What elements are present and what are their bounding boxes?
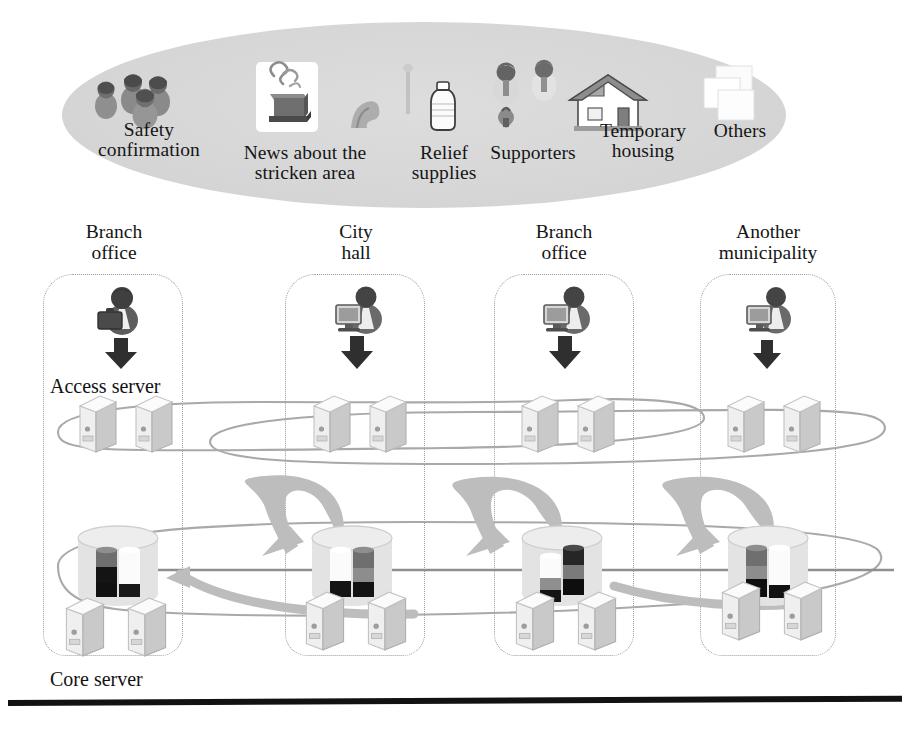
category-label-news: News about the stricken area	[222, 143, 388, 184]
access-server-tower-icon	[572, 392, 620, 456]
category-label-supporters: Supporters	[470, 143, 596, 163]
diagram-canvas: Safety confirmation News about the stric…	[0, 0, 910, 736]
down-arrow-icon-col-4	[752, 340, 782, 370]
core-server-label: Core server	[50, 668, 143, 691]
user-at-computer-icon	[740, 284, 798, 336]
core-server-tower-icon	[122, 594, 172, 660]
site-heading-another-municipality: Another municipality	[688, 222, 848, 263]
access-server-tower-icon	[308, 392, 356, 456]
access-server-tower-icon	[364, 392, 412, 456]
down-arrow-icon-col-2	[340, 336, 374, 370]
access-server-tower-icon	[74, 392, 122, 456]
down-arrow-icon-col-3	[548, 336, 582, 370]
category-label-others: Others	[694, 121, 786, 141]
site-heading-city-hall: City hall	[285, 222, 427, 263]
bottom-horizontal-rule	[8, 696, 902, 706]
site-heading-branch-office-2: Branch office	[493, 222, 635, 263]
core-server-tower-icon	[300, 588, 350, 654]
access-server-tower-icon	[778, 392, 826, 456]
access-server-tower-icon	[130, 392, 178, 456]
core-server-tower-icon	[716, 578, 766, 644]
category-label-temporary-housing: Temporary housing	[582, 121, 704, 162]
core-server-tower-icon	[572, 588, 622, 654]
core-server-tower-icon	[362, 588, 412, 654]
core-server-tower-icon	[510, 588, 560, 654]
category-label-safety-confirmation: Safety confirmation	[64, 120, 234, 161]
site-heading-branch-office-1: Branch office	[43, 222, 185, 263]
user-at-computer-icon	[330, 284, 388, 336]
access-server-tower-icon	[722, 392, 770, 456]
access-server-tower-icon	[516, 392, 564, 456]
core-server-tower-icon	[778, 578, 828, 644]
down-arrow-icon-col-1	[104, 338, 138, 370]
user-with-briefcase-icon	[92, 284, 148, 336]
core-server-tower-icon	[60, 594, 110, 660]
user-at-computer-icon	[538, 284, 596, 336]
